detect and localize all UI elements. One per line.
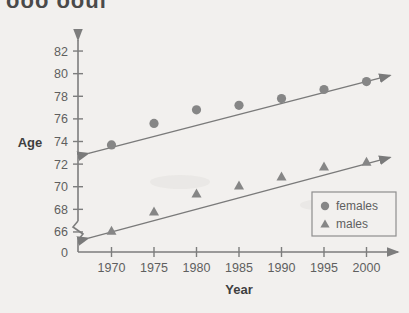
trendline-females: [89, 75, 391, 153]
y-axis-tick-label: 80: [54, 67, 68, 81]
x-axis-tick-label: 1970: [98, 261, 126, 275]
y-axis-tick-label: 82: [54, 45, 68, 59]
y-axis-tick-label: 68: [54, 203, 68, 217]
data-point-males: [234, 181, 244, 190]
x-axis-tick-label: 1980: [183, 261, 211, 275]
x-axis-title: Year: [225, 282, 252, 297]
x-axis-tick-label: 1975: [140, 261, 168, 275]
y-axis-tick-label: 78: [54, 90, 68, 104]
y-axis-tick-label: 66: [54, 225, 68, 239]
legend-circle-marker-icon: [321, 202, 329, 210]
data-point-females: [192, 105, 201, 114]
y-axis-tick-label: 74: [54, 135, 68, 149]
x-axis-tick-label: 2000: [353, 261, 381, 275]
data-point-males: [319, 161, 329, 170]
data-point-males: [192, 189, 202, 198]
x-axis-tick-label: 1990: [268, 261, 296, 275]
data-point-females: [319, 85, 328, 94]
y-axis-tick-label: 76: [54, 112, 68, 126]
y-axis-tick-label: 0: [61, 246, 68, 260]
x-axis-tick-label: 1995: [310, 261, 338, 275]
data-point-males: [149, 207, 159, 216]
y-axis-tick-label: 72: [54, 158, 68, 172]
legend-label-males: males: [336, 217, 368, 231]
y-axis-tick-label: 70: [54, 180, 68, 194]
data-point-females: [107, 140, 116, 149]
data-point-females: [277, 94, 286, 103]
data-point-males: [277, 172, 287, 181]
x-axis-tick-label: 1985: [225, 261, 253, 275]
legend-label-females: females: [336, 199, 378, 213]
chart-figure: ooo ooui 6668707274767880820197019751980…: [0, 0, 409, 313]
data-point-females: [234, 101, 243, 110]
y-axis-break-symbol: [73, 221, 83, 252]
data-point-females: [362, 77, 371, 86]
y-axis-title: Age: [18, 135, 43, 150]
data-point-females: [149, 119, 158, 128]
scatter-plot: 6668707274767880820197019751980198519901…: [0, 0, 409, 313]
data-point-males: [107, 226, 117, 235]
data-point-males: [362, 157, 372, 166]
